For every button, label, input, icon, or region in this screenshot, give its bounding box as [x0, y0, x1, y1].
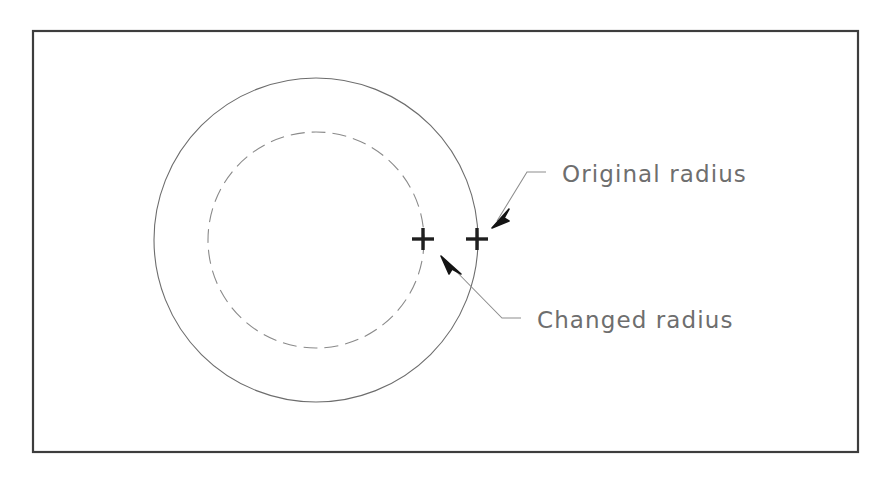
original-radius-marker — [466, 228, 488, 250]
changed-radius-arrowhead — [441, 256, 461, 274]
original-radius-label: Original radius — [562, 161, 747, 187]
original-radius-arrowhead — [492, 209, 509, 228]
changed-radius-label: Changed radius — [537, 307, 733, 333]
page-border — [33, 31, 858, 452]
technical-drawing: Original radius Changed radius — [0, 0, 892, 480]
changed-radius-marker — [412, 228, 434, 250]
changed-radius-circle — [208, 132, 424, 348]
diagram-canvas: Original radius Changed radius — [0, 0, 892, 480]
changed-radius-annotation: Changed radius — [441, 256, 733, 333]
original-radius-annotation: Original radius — [492, 161, 747, 228]
